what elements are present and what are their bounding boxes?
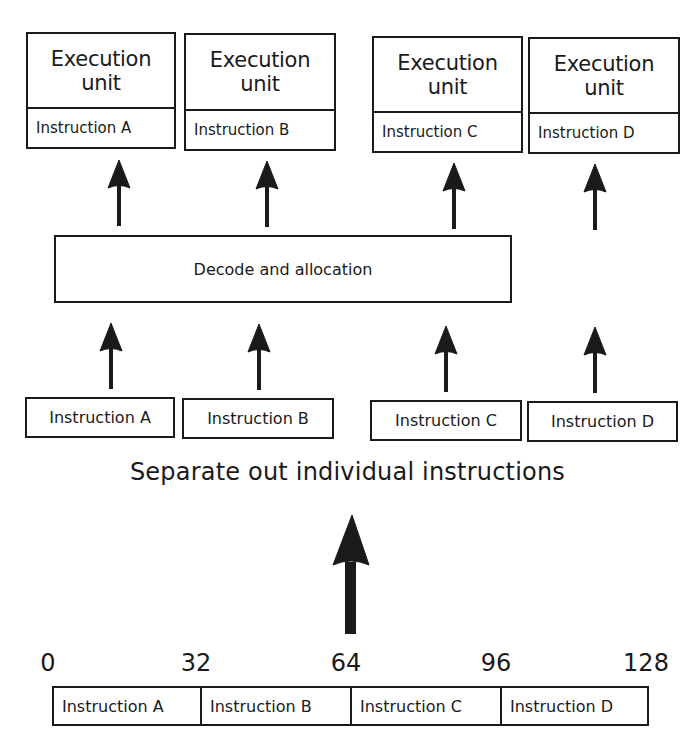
arrow-up-icon [108, 160, 130, 226]
arrow-up-icon [248, 324, 270, 390]
arrow-up-icon [100, 323, 122, 389]
large-arrow-up-icon [333, 515, 369, 634]
arrow-up-icon [443, 163, 465, 229]
arrow-up-icon [435, 326, 457, 392]
arrow-up-icon [584, 327, 606, 393]
arrow-up-icon [256, 161, 278, 227]
arrows-layer [0, 0, 695, 730]
arrow-up-icon [584, 164, 606, 230]
